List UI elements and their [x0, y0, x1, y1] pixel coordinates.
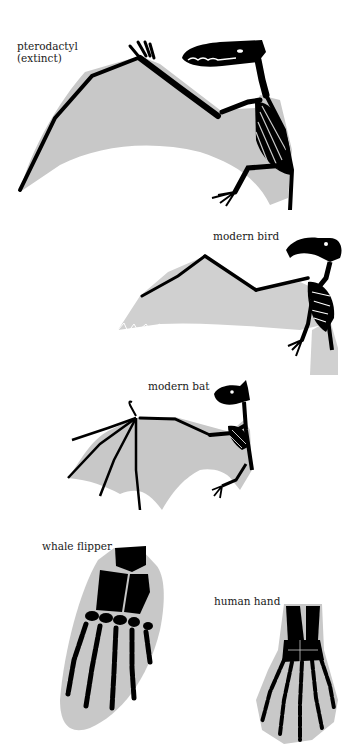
whale-label: whale flipper [42, 540, 112, 552]
pterodactyl-label: pterodactyl (extinct) [17, 40, 78, 64]
pterodactyl-skeleton-icon [20, 40, 292, 210]
homology-figure: pterodactyl (extinct) modern bird modern… [0, 0, 361, 756]
whale-label-name: whale flipper [42, 540, 112, 552]
bat-label: modern bat [148, 380, 210, 392]
specimens-illustration [0, 0, 361, 756]
bird-label-name: modern bird [213, 230, 279, 242]
bat-label-name: modern bat [148, 380, 210, 392]
bird-skeleton-icon [118, 238, 342, 376]
pterodactyl-label-status: (extinct) [17, 52, 78, 64]
human-label-name: human hand [214, 595, 280, 607]
bat-skeleton-icon [68, 380, 252, 510]
human-hand-skeleton-icon [256, 604, 338, 744]
pterodactyl-label-name: pterodactyl [17, 40, 78, 52]
human-label: human hand [214, 595, 280, 607]
whale-flipper-skeleton-icon [60, 546, 164, 730]
bird-label: modern bird [213, 230, 279, 242]
